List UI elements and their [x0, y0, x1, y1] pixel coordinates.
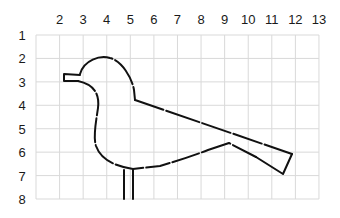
grid-drawing: 2345678910111213 12345678	[0, 0, 340, 218]
column-label: 13	[312, 12, 326, 27]
bird-back	[135, 100, 292, 154]
column-label: 6	[150, 12, 157, 27]
column-label: 7	[174, 12, 181, 27]
column-label: 11	[265, 12, 279, 27]
bird-beak	[64, 74, 80, 81]
row-labels: 12345678	[18, 28, 25, 207]
column-label: 5	[127, 12, 134, 27]
bird-outline	[64, 57, 292, 199]
row-label: 8	[18, 192, 25, 207]
column-label: 12	[288, 12, 302, 27]
column-label: 10	[241, 12, 255, 27]
row-label: 7	[18, 169, 25, 184]
row-label: 6	[18, 145, 25, 160]
grid-lines	[36, 35, 319, 199]
row-label: 2	[18, 51, 25, 66]
bird-tail	[256, 154, 292, 174]
row-label: 3	[18, 75, 25, 90]
row-label: 5	[18, 122, 25, 137]
column-label: 2	[56, 12, 63, 27]
column-label: 8	[197, 12, 204, 27]
row-label: 1	[18, 28, 25, 43]
column-labels: 2345678910111213	[56, 12, 326, 27]
bird-head	[80, 57, 135, 100]
column-label: 4	[103, 12, 110, 27]
bird-chest	[78, 81, 133, 169]
row-label: 4	[18, 98, 25, 113]
column-label: 3	[80, 12, 87, 27]
column-label: 9	[221, 12, 228, 27]
bird-underside	[133, 143, 256, 169]
